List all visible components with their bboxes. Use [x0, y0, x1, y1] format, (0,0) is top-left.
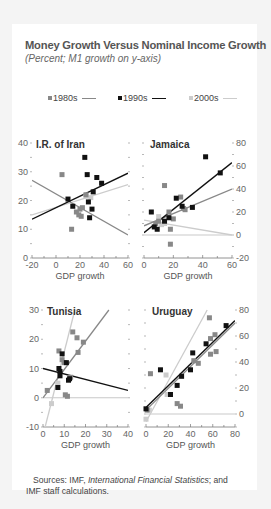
- uruguay-point-1980s: [208, 352, 213, 357]
- uruguay-y-tick-label: 80: [239, 305, 249, 315]
- uruguay-y-tick-label: 60: [239, 331, 249, 341]
- tunisia-point-1990s: [58, 369, 63, 374]
- i-r-of-iran-point-1980s: [79, 214, 84, 219]
- i-r-of-iran-x-tick-label: 20: [75, 260, 85, 270]
- jamaica-y-tick-label: 0: [236, 230, 241, 240]
- uruguay-point-1980s: [214, 349, 219, 354]
- tunisia-point-1980s: [45, 388, 50, 393]
- uruguay-x-tick-label: 60: [208, 429, 218, 439]
- uruguay-point-1980s: [178, 404, 183, 409]
- tunisia-point-1990s: [67, 376, 72, 381]
- tunisia-point-1980s: [81, 340, 86, 345]
- tunisia-y-tick-label: 30: [29, 305, 39, 315]
- i-r-of-iran-y-tick-label: 10: [18, 224, 28, 234]
- tunisia-y-tick-label: 10: [29, 364, 39, 374]
- source-publication: International Financial Statistics: [88, 475, 209, 485]
- uruguay-point-1980s: [196, 361, 201, 366]
- i-r-of-iran-panel-title: I.R. of Iran: [36, 139, 85, 150]
- i-r-of-iran-point-1980s: [80, 205, 85, 210]
- uruguay-x-tick-label: 20: [163, 429, 173, 439]
- uruguay-point-1990s: [179, 374, 184, 379]
- i-r-of-iran-y-tick-label: 30: [18, 167, 28, 177]
- i-r-of-iran-y-tick-label: 20: [18, 196, 28, 206]
- i-r-of-iran-point-1990s: [99, 181, 104, 186]
- uruguay-point-1990s: [168, 392, 173, 397]
- uruguay-y-tick-label: 0: [239, 409, 244, 419]
- jamaica-point-1980s: [168, 242, 173, 247]
- jamaica-point-1980s: [168, 227, 173, 232]
- uruguay-point-1980s: [207, 315, 212, 320]
- jamaica-point-1990s: [203, 154, 208, 159]
- i-r-of-iran-x-tick-label: 60: [123, 260, 133, 270]
- i-r-of-iran-point-1990s: [66, 197, 71, 202]
- jamaica-x-axis-title: GDP growth: [164, 271, 213, 281]
- i-r-of-iran-point-1980s: [60, 172, 65, 177]
- scatter-panels: -200204060GDP growth010203040I.R. of Ira…: [0, 0, 271, 509]
- i-r-of-iran-x-axis-title: GDP growth: [56, 271, 105, 281]
- tunisia-point-1980s: [70, 329, 75, 334]
- jamaica-point-1990s: [149, 210, 154, 215]
- uruguay-point-1990s: [224, 323, 229, 328]
- jamaica-panel-title: Jamaica: [150, 139, 190, 150]
- uruguay-point-1990s: [190, 350, 195, 355]
- tunisia-point-1990s: [58, 373, 63, 378]
- tunisia-x-axis-title: GDP growth: [61, 440, 110, 450]
- tunisia-y-tick-label: 0: [34, 393, 39, 403]
- uruguay-x-axis-title: GDP growth: [166, 440, 215, 450]
- uruguay-point-1990s: [188, 367, 193, 372]
- uruguay-point-1980s: [191, 358, 196, 363]
- jamaica-point-1980s: [156, 219, 161, 224]
- jamaica-y-tick-label: 40: [236, 184, 246, 194]
- jamaica-point-1980s: [178, 195, 183, 200]
- i-r-of-iran-point-1980s: [69, 227, 74, 232]
- jamaica-point-1990s: [218, 170, 223, 175]
- uruguay-point-1990s: [204, 341, 209, 346]
- i-r-of-iran-point-1990s: [86, 199, 91, 204]
- tunisia-point-1990s: [60, 351, 65, 356]
- uruguay-fit-line-1980s: [146, 323, 235, 410]
- i-r-of-iran-y-tick-label: 0: [23, 253, 28, 263]
- i-r-of-iran-point-1990s: [70, 204, 75, 209]
- tunisia-y-tick-label: -10: [26, 422, 39, 432]
- i-r-of-iran-x-tick-label: 0: [53, 260, 58, 270]
- tunisia-point-1990s: [55, 385, 60, 390]
- tunisia-x-tick-label: 0: [40, 429, 45, 439]
- i-r-of-iran-point-2000s: [88, 195, 93, 200]
- jamaica-point-1990s: [190, 205, 195, 210]
- jamaica-y-tick-label: -20: [236, 253, 249, 263]
- tunisia-x-tick-label: 20: [80, 429, 90, 439]
- tunisia-point-1990s: [64, 360, 69, 365]
- tunisia-x-tick-label: 40: [123, 429, 133, 439]
- i-r-of-iran-point-1990s: [91, 189, 96, 194]
- source-note: Sources: IMF, International Financial St…: [26, 475, 241, 497]
- i-r-of-iran-fit-line-1990s: [32, 173, 128, 219]
- uruguay-point-1980s: [148, 371, 153, 376]
- tunisia-point-2000s: [55, 381, 60, 386]
- uruguay-x-tick-label: 0: [143, 429, 148, 439]
- uruguay-x-tick-label: 80: [230, 429, 240, 439]
- jamaica-y-tick-label: 80: [236, 138, 246, 148]
- i-r-of-iran-point-1990s: [87, 215, 92, 220]
- uruguay-fit-line-1990s: [146, 320, 235, 407]
- uruguay-y-tick-label: 40: [239, 357, 249, 367]
- i-r-of-iran-point-1990s: [90, 207, 95, 212]
- jamaica-point-2000s: [156, 214, 161, 219]
- i-r-of-iran-y-tick-label: 40: [18, 138, 28, 148]
- tunisia-x-tick-label: 30: [102, 429, 112, 439]
- jamaica-y-tick-label: 20: [236, 207, 246, 217]
- tunisia-point-1980s: [76, 350, 81, 355]
- uruguay-point-1990s: [144, 406, 149, 411]
- uruguay-point-1980s: [208, 336, 213, 341]
- jamaica-x-tick-label: 0: [141, 260, 146, 270]
- jamaica-point-1990s: [166, 215, 171, 220]
- jamaica-point-1980s: [171, 216, 176, 221]
- tunisia-point-1980s: [65, 394, 70, 399]
- source-prefix: Sources: IMF,: [26, 475, 88, 485]
- i-r-of-iran-point-1990s: [82, 155, 87, 160]
- jamaica-y-tick-label: 60: [236, 161, 246, 171]
- jamaica-point-1990s: [180, 204, 185, 209]
- jamaica-point-1990s: [155, 227, 160, 232]
- jamaica-point-1980s: [162, 183, 167, 188]
- tunisia-point-1980s: [75, 335, 80, 340]
- uruguay-panel-title: Uruguay: [152, 306, 193, 317]
